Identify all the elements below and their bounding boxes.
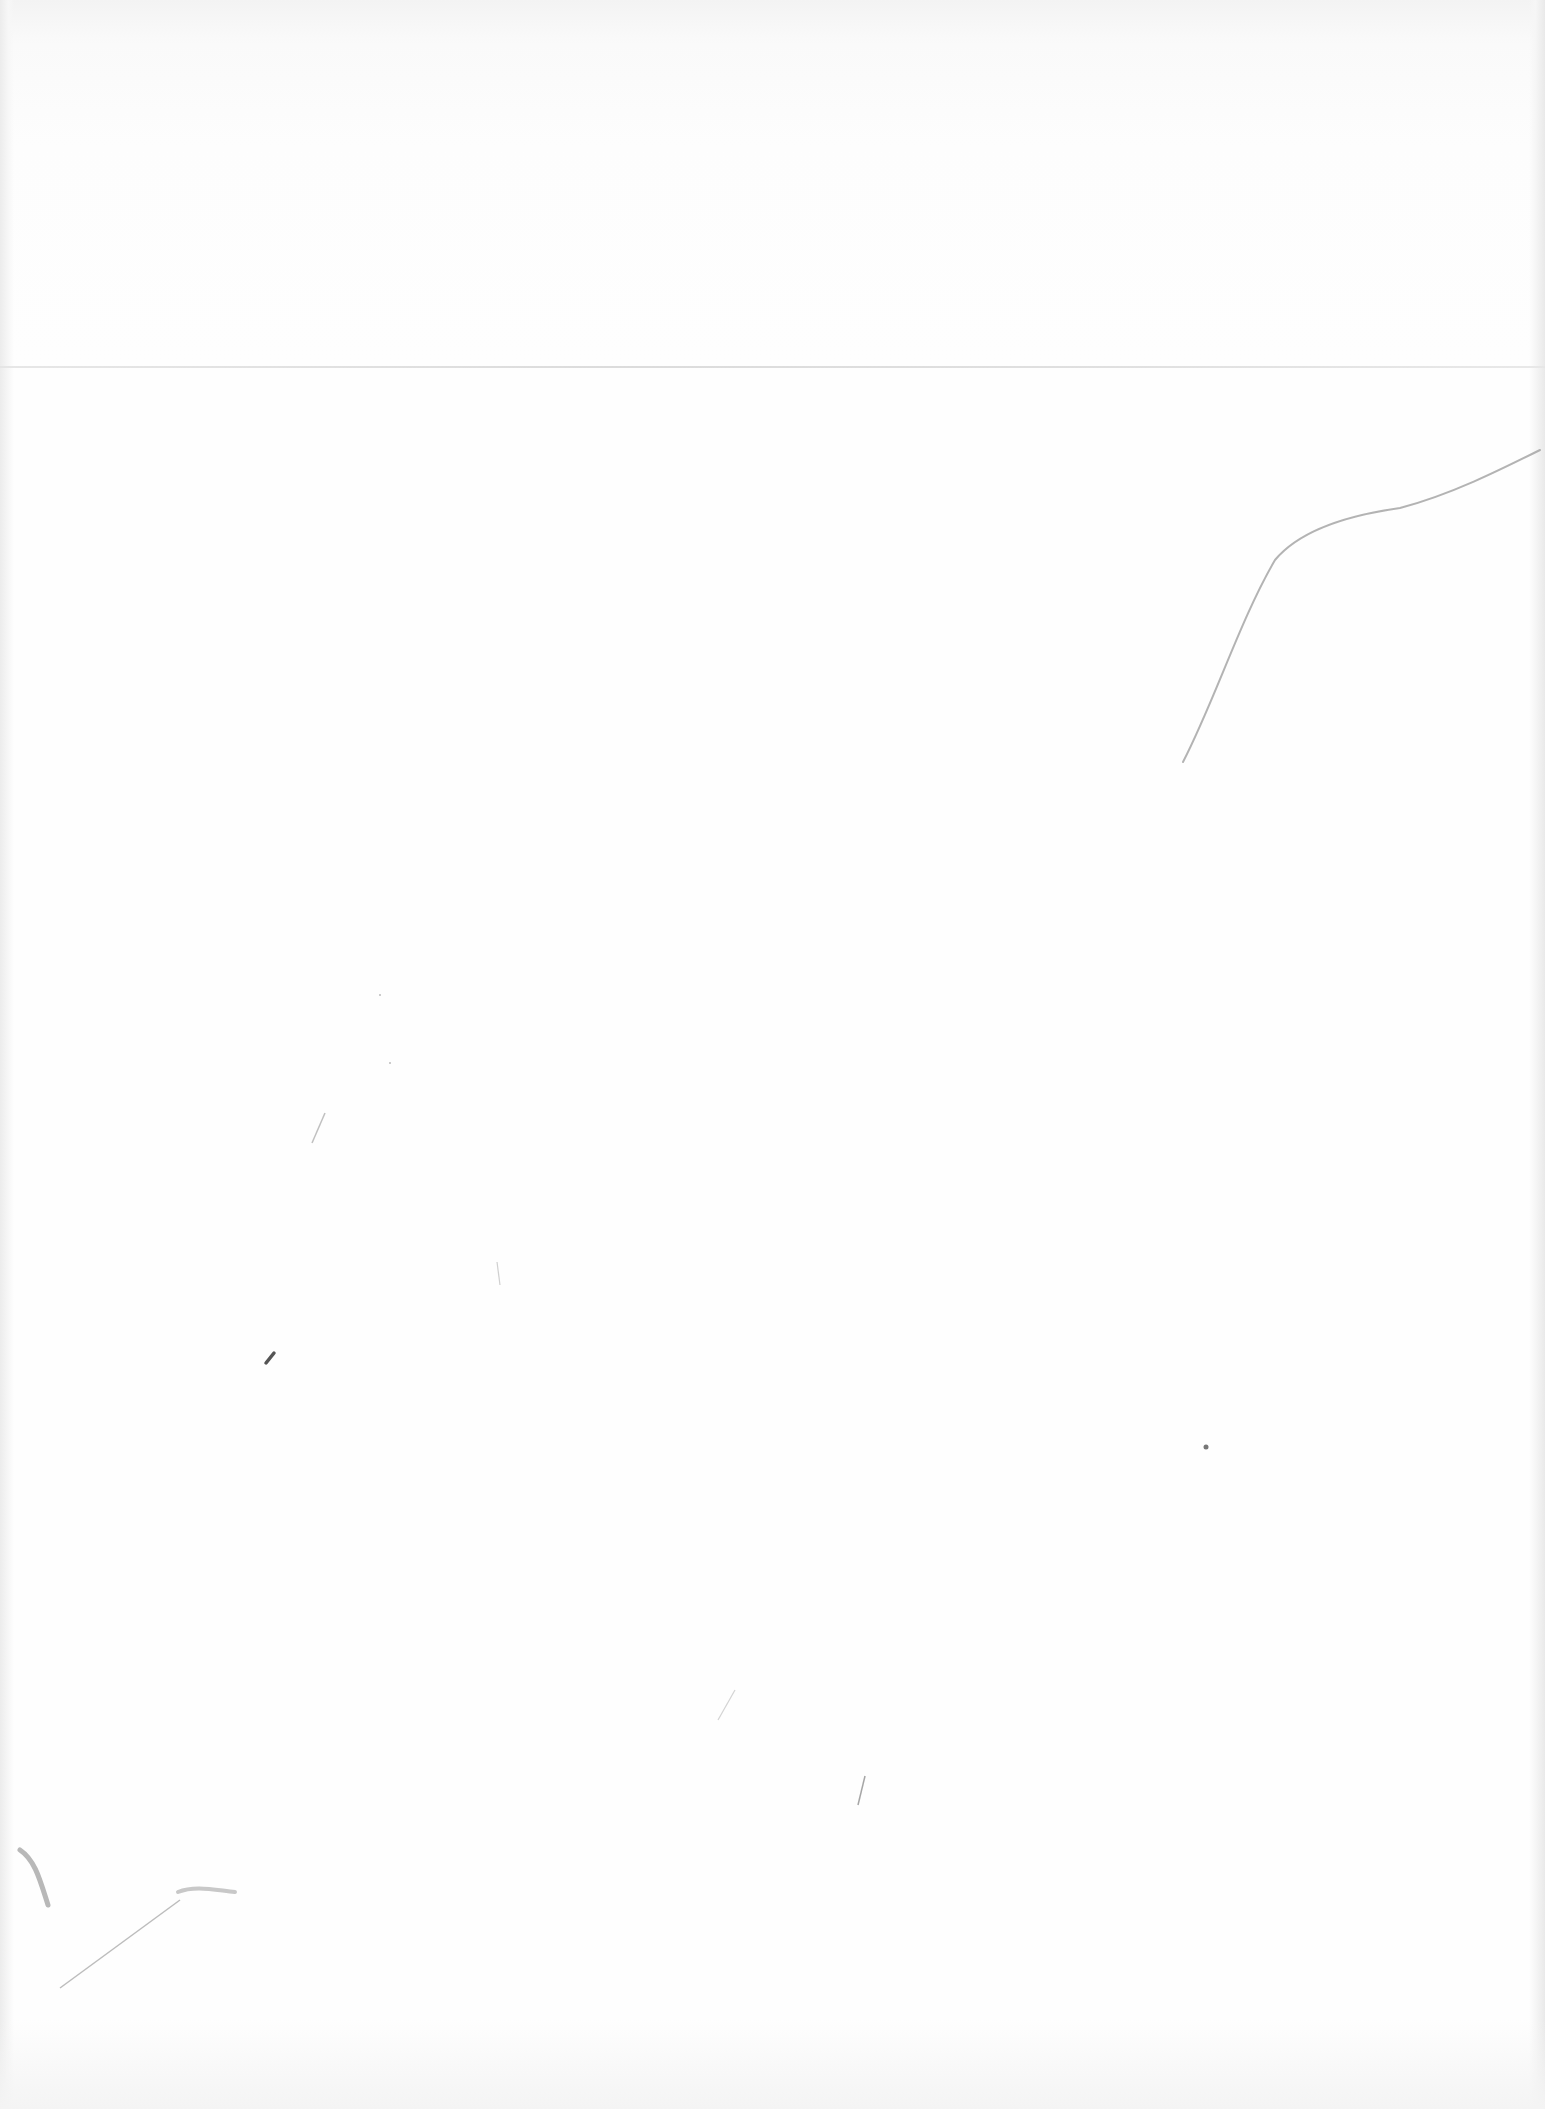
blank-scanned-page <box>0 0 1545 2109</box>
small-pencil-mark <box>312 1113 325 1143</box>
dust-speck <box>1204 1445 1209 1450</box>
pencil-smudge <box>178 1888 235 1892</box>
dark-speck-mark <box>266 1353 274 1363</box>
small-pencil-mark <box>497 1262 500 1285</box>
dust-speck <box>389 1062 391 1064</box>
pencil-marks <box>0 0 1545 2109</box>
corner-pencil-smudge <box>20 1850 48 1905</box>
small-pencil-mark <box>858 1776 865 1805</box>
small-pencil-mark <box>718 1690 735 1720</box>
dust-speck <box>379 994 381 996</box>
curved-pencil-stroke <box>1183 450 1540 762</box>
long-pencil-stroke <box>60 1900 180 1988</box>
